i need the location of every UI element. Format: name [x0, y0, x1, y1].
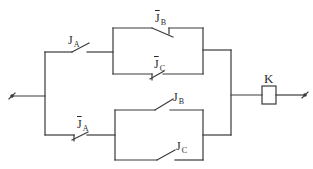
label-JB: JB: [173, 91, 184, 103]
left-terminal: [9, 93, 45, 99]
coil-K: [231, 86, 305, 104]
circuit-diagram: JA JB JC JA JB JC K: [0, 0, 313, 169]
contact-JC: [115, 150, 203, 160]
contact-JA-bar: [45, 132, 115, 141]
label-JA-bar: JA: [77, 118, 88, 130]
contact-JB-bar: [113, 28, 203, 37]
label-K: K: [264, 72, 273, 85]
contact-JC-bar: [113, 71, 203, 80]
label-JA: JA: [68, 34, 79, 46]
label-JB-bar: JB: [155, 12, 166, 24]
contact-JB: [115, 99, 203, 110]
label-JC: JC: [176, 140, 187, 152]
label-JC-bar: JC: [154, 58, 165, 70]
